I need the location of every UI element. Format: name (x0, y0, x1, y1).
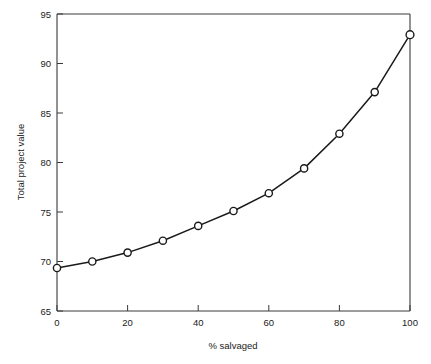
x-axis-title: % salvaged (208, 340, 257, 351)
y-tick-label-85: 85 (40, 108, 51, 119)
chart-figure: 65 70 75 80 85 90 95 0 20 40 60 80 100 (0, 0, 431, 364)
y-tick-label-70: 70 (40, 256, 51, 267)
data-point (406, 31, 414, 39)
line-chart: 65 70 75 80 85 90 95 0 20 40 60 80 100 (0, 0, 431, 364)
y-tick-label-80: 80 (40, 157, 51, 168)
data-point (265, 190, 272, 197)
data-point (53, 264, 60, 271)
data-point (371, 89, 378, 96)
data-point (89, 258, 96, 265)
data-point (159, 237, 166, 244)
axes-frame (57, 14, 410, 311)
x-tick-label-80: 80 (334, 317, 345, 328)
y-tick-label-65: 65 (40, 306, 51, 317)
y-tick-label-90: 90 (40, 58, 51, 69)
data-point (195, 222, 202, 229)
x-tick-label-100: 100 (402, 317, 418, 328)
y-tick-label-95: 95 (40, 9, 51, 20)
x-tick-label-20: 20 (122, 317, 133, 328)
data-point (301, 165, 308, 172)
x-tick-label-0: 0 (54, 317, 59, 328)
y-tick-label-75: 75 (40, 207, 51, 218)
y-axis-tick-labels: 65 70 75 80 85 90 95 (40, 9, 51, 317)
data-point-markers (53, 31, 414, 272)
x-axis-ticks (57, 305, 410, 311)
y-axis-title: Total project value (15, 124, 26, 201)
x-tick-label-40: 40 (193, 317, 204, 328)
data-point (124, 249, 131, 256)
x-axis-tick-labels: 0 20 40 60 80 100 (54, 317, 418, 328)
x-tick-label-60: 60 (264, 317, 275, 328)
data-point (230, 207, 237, 214)
data-point (336, 130, 343, 137)
data-series-line (57, 35, 410, 268)
